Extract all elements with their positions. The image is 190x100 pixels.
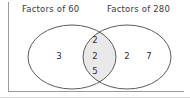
left-only-value: 3 (53, 51, 65, 61)
right-only-value: 7 (143, 51, 155, 61)
intersection-value: 2 (89, 35, 101, 45)
intersection-value: 2 (89, 51, 101, 61)
venn-circles-graphic (0, 0, 190, 100)
intersection-value: 5 (89, 66, 101, 76)
right-only-value: 2 (121, 51, 133, 61)
venn-diagram-page: Factors of 60 Factors of 280 3 2 2 5 2 7 (0, 0, 190, 100)
